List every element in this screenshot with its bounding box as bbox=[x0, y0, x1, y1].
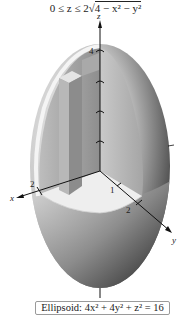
column-front-face bbox=[59, 78, 69, 195]
z-axis-arrowhead bbox=[98, 20, 102, 28]
y-axis-label: y bbox=[171, 235, 176, 245]
y-tick-label-1: 1 bbox=[110, 185, 115, 195]
ellipsoid-caption: Ellipsoid: 4x² + 4y² + z² = 16 bbox=[35, 301, 170, 315]
y-tick-label-2: 2 bbox=[126, 205, 131, 215]
x-axis-label: x bbox=[9, 193, 14, 203]
x-tick-label-2: 2 bbox=[30, 179, 35, 189]
ellipsoid-figure: z 4 x 2 y 1 2 bbox=[0, 0, 191, 318]
x-axis-arrowhead bbox=[16, 194, 24, 198]
z-tick-label-4: 4 bbox=[89, 46, 94, 56]
z-axis-label: z bbox=[96, 11, 101, 21]
